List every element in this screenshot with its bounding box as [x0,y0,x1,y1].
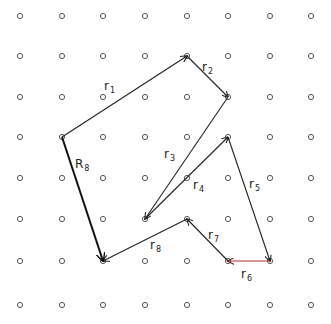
lattice-point [184,258,189,263]
lattice-point [17,175,22,180]
lattice-point [17,302,22,307]
lattice-point [308,94,313,99]
lattice-point [17,13,22,18]
vector-label-r4: r4 [193,178,204,194]
lattice-point [100,216,105,221]
lattice-point [59,216,64,221]
lattice-point [267,13,272,18]
vector-label-r1: r1 [104,79,115,95]
lattice-point [59,302,64,307]
lattice-point [267,302,272,307]
vector-label-r7: r7 [208,228,219,244]
lattice-point [267,134,272,139]
lattice-point [142,175,147,180]
diagram-svg: r1r2r3r4r5r6r7r8R8 [0,0,331,324]
lattice-point [184,94,189,99]
lattice-point [308,258,313,263]
lattice-point [59,94,64,99]
lattice-point [100,53,105,58]
vector-r3-arrow [145,97,228,219]
lattice-point [308,13,313,18]
lattice-point [142,13,147,18]
lattice-point [267,175,272,180]
vector-label-r6: r6 [241,267,252,283]
lattice-point [17,94,22,99]
lattice-point [59,175,64,180]
vector-r4-arrow [145,137,228,219]
lattice-point [184,13,189,18]
lattice-point [59,13,64,18]
lattice-point [225,53,230,58]
lattice-point [308,53,313,58]
lattice-point [308,134,313,139]
lattice-point [308,302,313,307]
lattice-point [100,134,105,139]
lattice-point [17,134,22,139]
lattice-point [267,216,272,221]
vector-label-r8: r8 [150,238,161,254]
lattice-point [17,258,22,263]
lattice-point [184,134,189,139]
lattice-point [100,302,105,307]
vector-label-r5: r5 [249,177,260,193]
lattice-point [142,94,147,99]
lattice-point [267,94,272,99]
vector-lattice-diagram: r1r2r3r4r5r6r7r8R8 [0,0,331,324]
vector-label-r3: r3 [164,147,175,163]
lattice-point [225,13,230,18]
lattice-point [142,258,147,263]
vector-r8-arrow [103,219,187,261]
lattice-point [225,216,230,221]
lattice-point [59,53,64,58]
lattice-point [100,94,105,99]
lattice-point [17,53,22,58]
vector-label-r2: r2 [202,60,213,76]
vector-label-r8: R8 [75,157,89,173]
lattice-point [225,302,230,307]
lattice-point [100,175,105,180]
lattice-point [100,13,105,18]
lattice-point [142,53,147,58]
vector-r1-arrow [62,56,187,137]
lattice-point [142,302,147,307]
vector-r2-arrow [187,56,228,97]
lattice-point [59,258,64,263]
lattice-point [225,175,230,180]
lattice-point [142,134,147,139]
lattice-point [17,216,22,221]
vector-r5-arrow [228,137,270,261]
lattice-point [308,216,313,221]
vector-r8-resultant-arrow [62,137,103,261]
lattice-point [267,53,272,58]
labels-group: r1r2r3r4r5r6r7r8R8 [75,60,260,283]
lattice-point [308,175,313,180]
lattice-point [184,302,189,307]
